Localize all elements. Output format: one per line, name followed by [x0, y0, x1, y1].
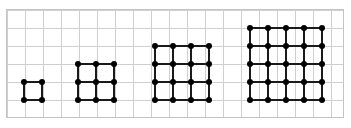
lattice-node [265, 79, 271, 85]
lattice-node [75, 79, 81, 85]
lattice-node [206, 79, 212, 85]
lattice-node [111, 61, 117, 67]
lattice-node [319, 61, 325, 67]
lattice-node [21, 97, 27, 103]
lattice-node [188, 61, 194, 67]
lattice-node [152, 61, 158, 67]
lattice-edge-vertical [190, 46, 192, 100]
lattice-node [188, 79, 194, 85]
lattice-node [265, 61, 271, 67]
lattice-node [206, 43, 212, 49]
lattice-node [283, 79, 289, 85]
figure-1 [24, 82, 42, 100]
figure-2 [78, 64, 114, 100]
lattice-node [319, 25, 325, 31]
lattice-node [301, 25, 307, 31]
lattice-node [247, 79, 253, 85]
lattice-node [319, 97, 325, 103]
lattice-node [301, 61, 307, 67]
lattice-node [301, 43, 307, 49]
lattice-node [170, 61, 176, 67]
lattice-node [170, 79, 176, 85]
lattice-node [111, 97, 117, 103]
dot-lattice-sequence-figure [0, 0, 351, 128]
lattice-node [247, 97, 253, 103]
figure-4 [250, 28, 322, 100]
lattice-node [39, 79, 45, 85]
lattice-node [206, 61, 212, 67]
lattice-node [206, 97, 212, 103]
lattice-node [301, 79, 307, 85]
lattice-edge-horizontal [155, 99, 209, 101]
lattice-node [152, 43, 158, 49]
lattice-node [75, 97, 81, 103]
lattice-edge-vertical [172, 46, 174, 100]
lattice-node [93, 61, 99, 67]
lattice-node [188, 97, 194, 103]
lattice-node [152, 79, 158, 85]
lattice-node [93, 79, 99, 85]
lattice-node [152, 97, 158, 103]
lattice-edge-horizontal [155, 63, 209, 65]
lattice-node [265, 25, 271, 31]
lattice-node [265, 97, 271, 103]
lattice-node [170, 43, 176, 49]
lattice-node [21, 79, 27, 85]
lattice-node [188, 43, 194, 49]
lattice-node [283, 43, 289, 49]
lattice-edge-horizontal [155, 45, 209, 47]
lattice-edge-horizontal [155, 81, 209, 83]
lattice-node [247, 25, 253, 31]
lattice-node [93, 97, 99, 103]
lattice-node [75, 61, 81, 67]
lattice-node [283, 97, 289, 103]
lattice-node [247, 61, 253, 67]
lattice-node [170, 97, 176, 103]
figure-3 [155, 46, 209, 100]
lattice-node [111, 79, 117, 85]
lattice-node [265, 43, 271, 49]
lattice-node [301, 97, 307, 103]
lattice-node [283, 25, 289, 31]
lattice-edge-vertical [154, 46, 156, 100]
lattice-node [319, 79, 325, 85]
lattice-node [319, 43, 325, 49]
lattice-node [283, 61, 289, 67]
lattice-node [247, 43, 253, 49]
lattice-node [39, 97, 45, 103]
lattice-edge-vertical [208, 46, 210, 100]
